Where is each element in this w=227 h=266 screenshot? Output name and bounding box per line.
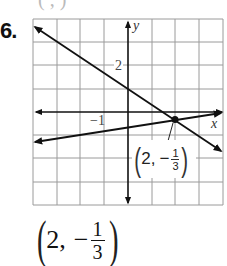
answer-denominator: 3 — [93, 241, 103, 263]
tick-label-y2: 2 — [114, 59, 123, 73]
pointer-arrow — [168, 123, 173, 141]
open-paren: ( — [134, 142, 141, 176]
close-paren: ) — [182, 142, 189, 176]
denominator: 3 — [172, 160, 178, 172]
answer-close-paren: ) — [108, 214, 118, 266]
answer-fraction: 1 3 — [91, 218, 105, 263]
tick-label-xneg1: −1 — [89, 114, 106, 128]
answer-minus: − — [74, 225, 89, 255]
answer-x-value: 2, — [46, 225, 66, 255]
answer-numerator: 1 — [93, 218, 103, 240]
label-x-value: 2, — [141, 149, 155, 169]
answer-text: ( 2, − 1 3 ) — [33, 214, 122, 266]
y-axis-label: y — [133, 18, 139, 34]
numerator: 1 — [172, 147, 178, 159]
intersection-point — [172, 116, 179, 123]
intersection-label: ( 2, − 1 3 ) — [132, 140, 196, 178]
label-minus: − — [160, 149, 170, 169]
label-fraction: 1 3 — [171, 147, 179, 172]
answer-open-paren: ( — [37, 214, 47, 266]
x-axis-label: x — [211, 116, 217, 132]
